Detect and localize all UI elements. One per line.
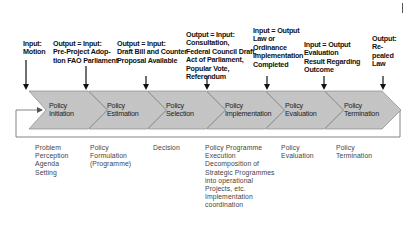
activity-policy-evaluation: Policy Evaluation	[281, 144, 314, 160]
activity-policy-formulation: Policy Formulation (Programme)	[90, 144, 131, 169]
stage-label-selection: Policy Selection	[166, 102, 194, 119]
output-label-repealed-law: Output: Re- pealed Law	[372, 35, 397, 69]
input-label-consultation: Output = Input: Consultation, Federal Co…	[186, 31, 256, 81]
activity-problem-perception: Problem Perception Agenda Setting	[35, 144, 69, 177]
input-label-evaluation-result: Input = Output Evaluation Result Regardi…	[304, 41, 360, 75]
activity-decision: Decision	[153, 144, 180, 152]
input-label-pre-project: Output = Input: Pre-Project Adop- tion F…	[53, 40, 118, 65]
activity-policy-programme: Policy Programme Execution Decomposition…	[205, 144, 275, 210]
stage-label-initiation: Policy Initiation	[49, 102, 74, 119]
input-label-motion: Input: Motion	[23, 40, 45, 57]
stage-label-implementation: Policy Implementation	[225, 102, 271, 119]
stage-label-termination: Policy Termination	[344, 102, 379, 119]
stage-label-estimation: Policy Estimation	[107, 102, 139, 119]
input-label-law-ordinance: Input = Output Law or Ordinance Implemen…	[253, 27, 303, 69]
activity-policy-termination: Policy Termination	[336, 144, 372, 160]
input-label-draft-bill: Output = Input: Draft Bill and Counter P…	[117, 40, 187, 65]
stage-label-evaluation: Policy Evaluation	[285, 102, 317, 119]
